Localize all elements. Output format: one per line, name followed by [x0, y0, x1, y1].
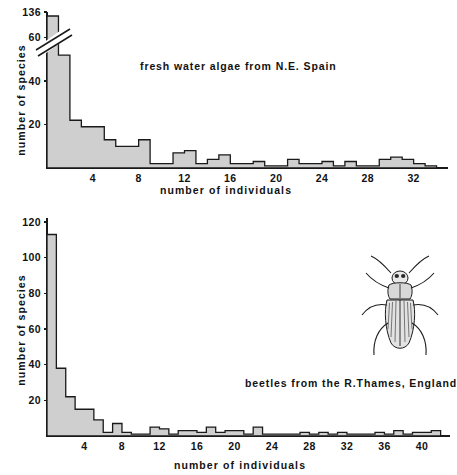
tick-label: 40	[29, 75, 41, 87]
beetles-x-tick-labels: 481216202428323640	[81, 436, 428, 452]
algae-x-axis-title: number of individuals	[160, 184, 292, 196]
beetles-y-axis-title: number of species	[15, 274, 27, 385]
tick-label: 20	[29, 118, 41, 130]
tick-label: 24	[316, 172, 328, 184]
algae-x-tick-labels: 48121620242832	[90, 168, 420, 184]
tick-label: 20	[270, 172, 282, 184]
algae-caption: fresh water algae from N.E. Spain	[140, 60, 337, 72]
panel-algae: number of species 204060136 481216202428…	[0, 0, 457, 200]
tick-label: 40	[29, 358, 41, 370]
tick-label: 28	[362, 172, 374, 184]
beetles-caption: beetles from the R.Thames, England	[245, 377, 457, 389]
figure-root: number of species 204060136 481216202428…	[0, 0, 457, 475]
tick-label: 120	[22, 216, 41, 228]
tick-label: 100	[22, 251, 41, 263]
algae-y-axis-title: number of species	[15, 44, 27, 155]
tick-label: 136	[22, 6, 41, 18]
tick-label: 20	[228, 440, 240, 452]
beetle-illustration	[362, 256, 438, 355]
tick-label: 60	[29, 31, 41, 43]
tick-label: 40	[416, 440, 428, 452]
tick-label: 80	[29, 287, 41, 299]
tick-label: 20	[29, 394, 41, 406]
beetles-histogram: number of species 20406080100120 4812162…	[0, 200, 457, 475]
tick-label: 12	[178, 172, 190, 184]
tick-label: 16	[224, 172, 236, 184]
tick-label: 36	[378, 440, 390, 452]
tick-label: 8	[119, 440, 125, 452]
tick-label: 8	[136, 172, 142, 184]
algae-bars	[47, 16, 437, 168]
tick-label: 24	[266, 440, 278, 452]
panel-beetles: number of species 20406080100120 4812162…	[0, 200, 457, 475]
tick-label: 4	[90, 172, 96, 184]
tick-label: 32	[407, 172, 419, 184]
beetles-x-axis-title: number of individuals	[174, 459, 306, 471]
tick-label: 12	[153, 440, 165, 452]
algae-histogram: number of species 204060136 481216202428…	[0, 0, 457, 200]
tick-label: 32	[341, 440, 353, 452]
tick-label: 28	[303, 440, 315, 452]
tick-label: 60	[29, 323, 41, 335]
beetles-bars	[47, 234, 441, 436]
tick-label: 4	[81, 440, 87, 452]
tick-label: 16	[191, 440, 203, 452]
